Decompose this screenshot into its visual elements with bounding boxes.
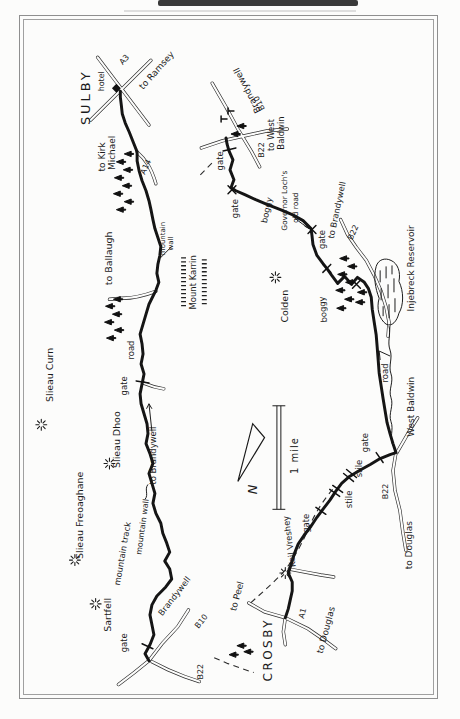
map-page: SULBY hotel A3 to Ramsey to Kirk Michael… (0, 0, 460, 719)
gate-post-icon (221, 116, 227, 122)
annotation-lines (145, 217, 390, 499)
label-old-road: old road (291, 192, 300, 223)
label-to-kirk: to Kirk (96, 141, 106, 171)
label-to-west: to West (266, 118, 276, 151)
stile-cross-mark (322, 264, 330, 272)
label-baldwin: Baldwin (276, 116, 286, 149)
label-scale: 1 mile (289, 437, 300, 474)
label-gate: gate (360, 433, 370, 452)
rotated-map-canvas: SULBY hotel A3 to Ramsey to Kirk Michael… (24, 20, 433, 694)
strip-map-svg: SULBY hotel A3 to Ramsey to Kirk Michael… (24, 20, 433, 694)
label-mountain: mountain (158, 221, 166, 254)
label-slieau-curn: Slieau Curn (44, 347, 55, 401)
label-gate: gate (301, 513, 311, 532)
route-part1-crosby-to-brandywell (226, 137, 396, 617)
label-boggy: boggy (316, 295, 328, 322)
label-to-douglas: to Douglas (403, 520, 413, 568)
label-b22: B22 (345, 223, 360, 241)
label-road: road (380, 363, 390, 382)
label-b10: B10 (193, 612, 210, 630)
label-a1: A1 (296, 606, 307, 618)
label-governor-lochs: Governor Loch's (280, 170, 289, 230)
label-mount-karrin: Mount Karrin (188, 255, 198, 309)
road-pointer-hook (379, 351, 390, 360)
label-sulby: SULBY (77, 69, 92, 125)
label-colden: Colden (279, 289, 290, 322)
label-b22: B22 (381, 483, 390, 499)
label-to-peel: to Peel (228, 580, 245, 612)
map-labels: SULBY hotel A3 to Ramsey to Kirk Michael… (44, 49, 416, 681)
label-a3: A3 (117, 52, 131, 66)
label-gate: gate (215, 151, 225, 170)
scale-bar (272, 405, 285, 509)
label-gate: gate (229, 199, 239, 218)
cropped-print-fragment (158, 0, 358, 6)
roads-layer (90, 57, 417, 684)
label-boggy: boggy (259, 196, 274, 224)
label-gate: gate (316, 230, 326, 249)
label-gate: gate (119, 376, 129, 395)
label-north: N (244, 484, 259, 494)
label-to-brandywell: to Brandywell (147, 426, 157, 484)
label-stile: stile (354, 459, 364, 477)
label-west-baldwin: West Baldwin (405, 376, 415, 436)
label-injebreck-reservoir: Injebreck Reservoir (405, 225, 415, 311)
map-area: SULBY hotel A3 to Ramsey to Kirk Michael… (24, 20, 433, 694)
label-gate: gate (119, 633, 129, 652)
label-crosby: CROSBY (261, 618, 275, 681)
page-edge-line (124, 10, 356, 12)
label-road: road (126, 340, 136, 359)
label-slieau-freoaghane: Slieau Freoaghane (73, 471, 84, 558)
label-sartfell: Sartfell (102, 597, 113, 631)
label-wall: wall (166, 236, 174, 250)
label-to-ballaugh: to Ballaugh (103, 231, 114, 285)
label-stile: stile (344, 490, 354, 508)
label-b22: B22 (256, 142, 265, 158)
label-mountain-track: mountain track (111, 520, 132, 585)
label-b22: B22 (196, 663, 205, 679)
label-michael: Michael (107, 135, 117, 169)
label-hotel: hotel (96, 71, 105, 91)
label-slieau-dhoo: Slieau Dhoo (111, 411, 122, 468)
label-mountain-wall: mountain wall (134, 498, 151, 555)
label-keil-vreshey: Keil Vreshey (280, 515, 297, 568)
north-arrow (237, 423, 264, 481)
mountain-wall-squiggle (145, 484, 148, 499)
